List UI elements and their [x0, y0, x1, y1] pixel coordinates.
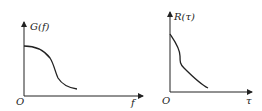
- psd-curve: [24, 46, 77, 89]
- psd-plot: G(f) O f: [16, 21, 143, 108]
- left-x-label: f: [130, 97, 137, 108]
- right-origin-label: O: [162, 95, 170, 106]
- right-y-label: R(τ): [173, 11, 195, 22]
- plots: G(f) O f R(τ) O τ: [0, 0, 262, 111]
- diagram: G(f) O f R(τ) O τ: [0, 0, 262, 111]
- left-origin-label: O: [16, 96, 24, 107]
- autocorrelation-plot: R(τ) O τ: [162, 11, 252, 106]
- left-y-label: G(f): [30, 21, 50, 32]
- autocorr-curve: [170, 34, 208, 88]
- right-x-label: τ: [246, 95, 252, 106]
